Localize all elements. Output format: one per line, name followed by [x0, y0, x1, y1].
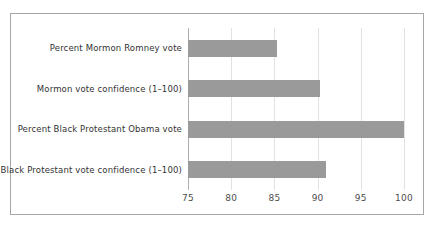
category-label-2: Percent Black Protestant Obama vote — [0, 124, 182, 134]
y-axis-category-labels: Percent Mormon Romney voteMormon vote co… — [0, 0, 436, 230]
category-label-3: Black Protestant vote confidence (1–100) — [0, 165, 182, 175]
category-label-1: Mormon vote confidence (1–100) — [0, 84, 182, 94]
category-label-0: Percent Mormon Romney vote — [0, 43, 182, 53]
chart-figure: 7580859095100 Percent Mormon Romney vote… — [0, 0, 436, 230]
